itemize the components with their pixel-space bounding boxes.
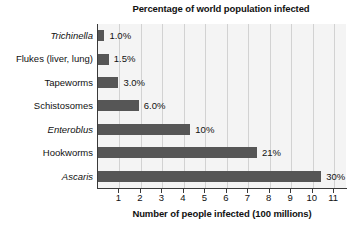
bar xyxy=(98,100,139,111)
bar-chart: Percentage of world population infected … xyxy=(0,0,364,229)
category-label: Flukes (liver, lung) xyxy=(0,47,93,70)
bar xyxy=(98,54,109,65)
bar xyxy=(98,147,257,158)
bar-value-label: 10% xyxy=(195,125,214,135)
x-axis-line xyxy=(97,188,347,189)
x-tick-label: 2 xyxy=(130,193,150,203)
bar-row: 3.0% xyxy=(98,71,346,94)
y-axis-category-labels: TrichinellaFlukes (liver, lung)Tapeworms… xyxy=(0,24,93,188)
bar xyxy=(98,77,118,88)
bar xyxy=(98,30,104,41)
category-label: Tapeworms xyxy=(0,71,93,94)
bar-value-label: 1.0% xyxy=(109,31,131,41)
x-tick-label: 9 xyxy=(280,193,300,203)
bar-row: 1.5% xyxy=(98,47,346,70)
bar-row: 30% xyxy=(98,165,346,188)
bar-value-label: 3.0% xyxy=(123,78,145,88)
category-label: Enteroblus xyxy=(0,118,93,141)
x-tick-label: 8 xyxy=(259,193,279,203)
bar-value-label: 30% xyxy=(326,172,345,182)
bar-row: 21% xyxy=(98,141,346,164)
chart-title: Percentage of world population infected xyxy=(97,3,345,14)
bar-value-label: 6.0% xyxy=(144,101,166,111)
x-tick-label: 5 xyxy=(194,193,214,203)
bar xyxy=(98,171,321,182)
category-label: Trichinella xyxy=(0,24,93,47)
bar-row: 6.0% xyxy=(98,94,346,117)
plot-area: 1.0%1.5%3.0%6.0%10%21%30% xyxy=(97,24,346,188)
category-label: Hookworms xyxy=(0,141,93,164)
bar-row: 10% xyxy=(98,118,346,141)
x-tick-label: 10 xyxy=(302,193,322,203)
x-tick-label: 3 xyxy=(151,193,171,203)
x-tick-label: 4 xyxy=(173,193,193,203)
x-tick-label: 6 xyxy=(216,193,236,203)
category-label: Schistosomes xyxy=(0,94,93,117)
bar xyxy=(98,124,190,135)
x-tick-label: 11 xyxy=(323,193,343,203)
bar-row: 1.0% xyxy=(98,24,346,47)
category-label: Ascaris xyxy=(0,165,93,188)
bar-value-label: 1.5% xyxy=(114,54,136,64)
x-tick-label: 1 xyxy=(108,193,128,203)
x-tick-label: 7 xyxy=(237,193,257,203)
bar-value-label: 21% xyxy=(262,148,281,158)
x-axis-title: Number of people infected (100 millions) xyxy=(97,208,347,219)
